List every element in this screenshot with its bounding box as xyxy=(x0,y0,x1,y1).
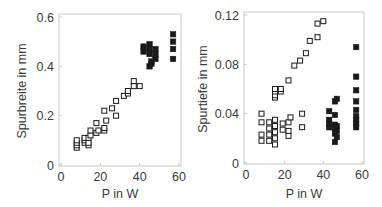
y-tick-label: 0.04 xyxy=(215,107,239,121)
filled-square-marker xyxy=(353,44,359,50)
filled-square-marker xyxy=(332,112,338,118)
open-square-marker xyxy=(278,87,283,92)
open-square-marker xyxy=(280,127,285,132)
filled-square-marker xyxy=(141,44,147,50)
filled-square-marker xyxy=(353,113,359,119)
open-square-marker xyxy=(280,121,285,126)
open-square-marker xyxy=(303,51,308,56)
open-square-marker xyxy=(267,132,272,137)
open-square-marker xyxy=(286,120,291,125)
filled-square-marker xyxy=(353,74,359,80)
open-square-marker xyxy=(102,126,107,131)
open-square-marker xyxy=(104,118,109,123)
x-tick-label: 0 xyxy=(243,168,250,182)
filled-square-marker xyxy=(334,134,340,140)
x-axis-label: P in W xyxy=(286,187,323,201)
open-square-marker xyxy=(298,58,303,63)
open-square-marker xyxy=(88,133,93,138)
x-tick-label: 0 xyxy=(58,170,65,184)
open-square-marker xyxy=(88,128,93,133)
x-tick-label: 20 xyxy=(93,170,107,184)
x-tick-label: 60 xyxy=(172,170,186,184)
markers xyxy=(259,19,359,147)
filled-square-marker xyxy=(332,139,338,145)
filled-square-marker xyxy=(170,56,176,62)
y-axis-label: Spurbreite in mm xyxy=(15,43,29,138)
open-square-marker xyxy=(259,120,264,125)
open-square-marker xyxy=(273,136,278,141)
filled-square-marker xyxy=(147,41,153,47)
open-square-marker xyxy=(286,78,291,83)
filled-square-marker xyxy=(334,123,340,129)
open-square-marker xyxy=(300,125,305,130)
open-square-marker xyxy=(131,84,136,89)
open-square-marker xyxy=(94,121,99,126)
y-tick-label: 0 xyxy=(47,159,54,173)
open-square-marker xyxy=(286,133,291,138)
open-square-marker xyxy=(300,111,305,116)
figure: 020406000.20.40.6 Spurbreite in mm P in … xyxy=(0,0,382,207)
open-square-marker xyxy=(273,87,278,92)
x-tick-label: 60 xyxy=(355,168,369,182)
filled-square-marker xyxy=(353,99,359,105)
open-square-marker xyxy=(292,63,297,68)
open-square-marker xyxy=(273,130,278,135)
filled-square-marker xyxy=(153,51,159,57)
open-square-marker xyxy=(273,117,278,122)
open-square-marker xyxy=(125,89,130,94)
open-square-marker xyxy=(131,79,136,84)
y-tick-label: 0.2 xyxy=(37,109,54,123)
x-tick-label: 20 xyxy=(278,168,292,182)
chart-spurtiefe: 020406000.040.080.12 Spurtiefe in mm P i… xyxy=(196,9,369,202)
open-square-marker xyxy=(259,132,264,137)
y-tick-label: 0.12 xyxy=(215,9,239,23)
open-square-marker xyxy=(137,84,142,89)
open-square-marker xyxy=(267,126,272,131)
markers xyxy=(74,32,176,151)
open-square-marker xyxy=(273,124,278,129)
filled-square-marker xyxy=(153,46,159,52)
filled-square-marker xyxy=(141,49,147,55)
filled-square-marker xyxy=(353,88,359,94)
filled-square-marker xyxy=(170,39,176,45)
open-square-marker xyxy=(259,111,264,116)
open-square-marker xyxy=(114,98,119,103)
open-square-marker xyxy=(96,128,101,133)
open-square-marker xyxy=(307,38,312,43)
open-square-marker xyxy=(114,113,119,118)
x-tick-label: 40 xyxy=(316,168,330,182)
open-square-marker xyxy=(315,35,320,40)
y-tick-label: 0.6 xyxy=(37,11,54,25)
filled-square-marker xyxy=(170,32,176,38)
y-axis-label: Spurtiefe in mm xyxy=(196,45,210,133)
y-tick-label: 0.08 xyxy=(215,58,239,72)
filled-square-marker xyxy=(326,117,332,123)
filled-square-marker xyxy=(353,107,359,113)
chart-spurbreite: 020406000.20.40.6 Spurbreite in mm P in … xyxy=(15,11,186,202)
y-tick-label: 0 xyxy=(232,157,239,171)
open-square-marker xyxy=(102,108,107,113)
open-square-marker xyxy=(259,138,264,143)
open-square-marker xyxy=(110,106,115,111)
x-axis-label: P in W xyxy=(102,187,139,201)
filled-square-marker xyxy=(147,51,153,57)
y-tick-label: 0.4 xyxy=(37,60,54,74)
filled-square-marker xyxy=(334,96,340,102)
open-square-marker xyxy=(273,142,278,147)
filled-square-marker xyxy=(170,46,176,52)
open-square-marker xyxy=(74,138,79,143)
axes: 020406000.20.40.6 xyxy=(37,11,186,185)
open-square-marker xyxy=(288,115,293,120)
open-square-marker xyxy=(267,138,272,143)
axes: 020406000.040.080.12 xyxy=(215,9,369,183)
open-square-marker xyxy=(86,140,91,145)
filled-square-marker xyxy=(326,108,332,114)
open-square-marker xyxy=(267,120,272,125)
open-square-marker xyxy=(315,21,320,26)
open-square-marker xyxy=(321,19,326,24)
open-square-marker xyxy=(286,128,291,133)
x-tick-label: 40 xyxy=(133,170,147,184)
